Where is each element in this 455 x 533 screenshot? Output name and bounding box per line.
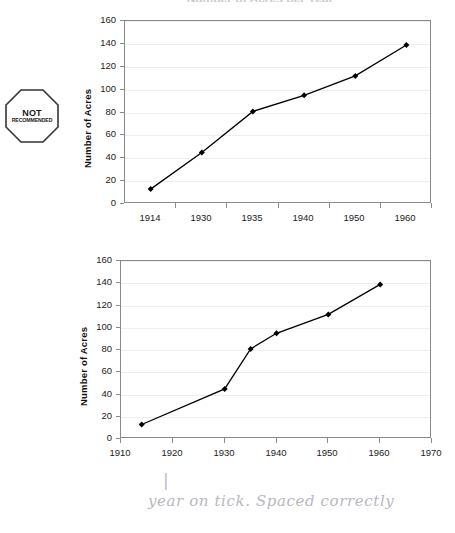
x-tick-label: 1940 bbox=[252, 447, 300, 458]
x-tick-mark bbox=[380, 203, 381, 208]
y-tick-mark bbox=[120, 89, 124, 90]
cut-off-chart-title: Number of Acres per Year bbox=[150, 0, 370, 2]
figure-page: Number of Acres per Year NOT RECOMMENDED… bbox=[0, 0, 455, 533]
x-tick-mark bbox=[379, 438, 380, 443]
y-tick-label: 40 bbox=[78, 388, 112, 399]
y-tick-mark bbox=[120, 43, 124, 44]
x-tick-label: 1930 bbox=[177, 212, 225, 223]
chart1-plot-area bbox=[124, 20, 431, 203]
y-tick-mark bbox=[116, 349, 120, 350]
y-tick-mark bbox=[116, 327, 120, 328]
y-tick-label: 60 bbox=[78, 365, 112, 376]
chart-top-category-axis: Number of Acres 020406080100120140160191… bbox=[0, 8, 455, 230]
y-tick-mark bbox=[120, 203, 124, 204]
y-tick-label: 60 bbox=[82, 128, 116, 139]
y-tick-label: 40 bbox=[82, 151, 116, 162]
y-tick-mark bbox=[116, 305, 120, 306]
x-tick-mark bbox=[431, 438, 432, 443]
x-tick-mark bbox=[329, 203, 330, 208]
x-tick-label: 1970 bbox=[407, 447, 455, 458]
x-tick-label: 1930 bbox=[200, 447, 248, 458]
y-tick-mark bbox=[120, 157, 124, 158]
y-tick-label: 80 bbox=[78, 343, 112, 354]
series-line bbox=[121, 261, 432, 439]
x-tick-label: 1910 bbox=[96, 447, 144, 458]
x-tick-label: 1940 bbox=[279, 212, 327, 223]
y-tick-mark bbox=[120, 20, 124, 21]
x-tick-mark bbox=[226, 203, 227, 208]
chart1-plot-frame bbox=[124, 20, 431, 203]
x-tick-label: 1950 bbox=[303, 447, 351, 458]
x-tick-mark bbox=[120, 438, 121, 443]
y-tick-mark bbox=[120, 112, 124, 113]
x-tick-label: 1960 bbox=[355, 447, 403, 458]
y-tick-mark bbox=[120, 66, 124, 67]
y-tick-label: 0 bbox=[82, 197, 116, 208]
y-tick-label: 140 bbox=[78, 276, 112, 287]
y-tick-label: 20 bbox=[82, 174, 116, 185]
handwritten-tick-stroke: | bbox=[163, 470, 169, 490]
y-tick-label: 160 bbox=[82, 14, 116, 25]
y-tick-mark bbox=[116, 394, 120, 395]
y-tick-label: 20 bbox=[78, 410, 112, 421]
x-tick-mark bbox=[224, 438, 225, 443]
x-tick-mark bbox=[172, 438, 173, 443]
x-tick-label: 1950 bbox=[330, 212, 378, 223]
x-tick-mark bbox=[278, 203, 279, 208]
chart2-plot-area bbox=[120, 260, 431, 438]
y-tick-label: 0 bbox=[78, 432, 112, 443]
y-tick-label: 100 bbox=[78, 321, 112, 332]
x-tick-mark bbox=[327, 438, 328, 443]
y-tick-label: 120 bbox=[78, 299, 112, 310]
chart-bottom-numeric-axis: Number of Acres 020406080100120140160191… bbox=[0, 250, 455, 468]
y-tick-mark bbox=[116, 282, 120, 283]
y-tick-mark bbox=[120, 134, 124, 135]
y-tick-mark bbox=[116, 416, 120, 417]
handwritten-note: year on tick. Spaced correctly bbox=[148, 492, 394, 510]
x-tick-mark bbox=[276, 438, 277, 443]
y-tick-label: 120 bbox=[82, 60, 116, 71]
y-tick-mark bbox=[120, 180, 124, 181]
x-tick-mark bbox=[175, 203, 176, 208]
y-tick-label: 140 bbox=[82, 37, 116, 48]
y-tick-mark bbox=[116, 371, 120, 372]
x-tick-label: 1935 bbox=[228, 212, 276, 223]
x-tick-label: 1920 bbox=[148, 447, 196, 458]
x-tick-mark bbox=[431, 203, 432, 208]
chart2-plot-frame bbox=[120, 260, 431, 438]
y-tick-label: 160 bbox=[78, 254, 112, 265]
y-tick-label: 80 bbox=[82, 106, 116, 117]
y-tick-mark bbox=[116, 260, 120, 261]
series-line bbox=[125, 21, 432, 204]
x-tick-label: 1960 bbox=[381, 212, 429, 223]
y-tick-label: 100 bbox=[82, 83, 116, 94]
x-tick-label: 1914 bbox=[126, 212, 174, 223]
